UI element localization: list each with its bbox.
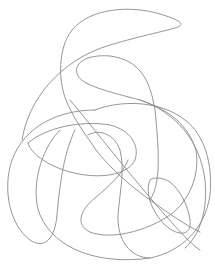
stroke-small-right-loop [148,178,190,233]
line-drawing [0,0,215,265]
stroke-diagonal-line [70,100,200,250]
stroke-upper-s-curve [77,56,200,232]
